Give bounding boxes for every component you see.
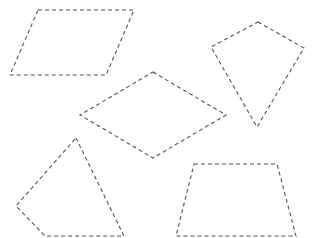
rhombus-shape — [80, 72, 226, 158]
shapes-canvas — [0, 0, 314, 238]
kite-shape — [211, 22, 304, 127]
parallelogram-shape — [10, 10, 134, 75]
trapezoid-shape — [176, 164, 296, 236]
quadrilateral-shape — [16, 138, 124, 236]
